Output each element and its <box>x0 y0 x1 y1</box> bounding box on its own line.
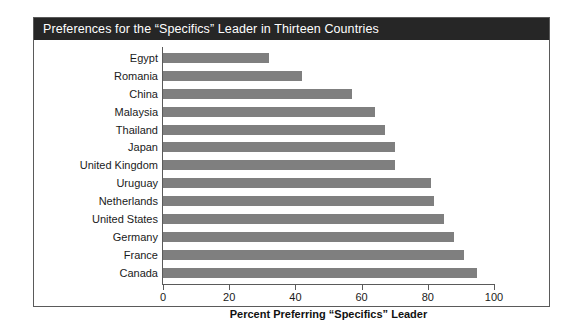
x-axis-tick-label: 40 <box>289 291 301 303</box>
bar-row: Germany <box>163 228 494 246</box>
category-label: Japan <box>128 141 158 153</box>
bar-netherlands <box>163 196 434 206</box>
bar-romania <box>163 71 302 81</box>
plot-area: Egypt Romania China Malaysia Thailand Ja… <box>34 40 549 307</box>
category-label: Egypt <box>130 52 158 64</box>
bar-row: Japan <box>163 139 494 157</box>
bar-row: Canada <box>163 264 494 282</box>
x-axis-tick-label: 20 <box>223 291 235 303</box>
bar-china <box>163 89 352 99</box>
bar-row: Egypt <box>163 49 494 67</box>
x-axis-tick <box>362 285 363 290</box>
bar-row: France <box>163 246 494 264</box>
bar-united-kingdom <box>163 160 395 170</box>
bar-row: Romania <box>163 67 494 85</box>
x-axis-tick-label: 60 <box>355 291 367 303</box>
x-axis-tick-label: 0 <box>160 291 166 303</box>
bar-row: Uruguay <box>163 174 494 192</box>
category-label: United States <box>92 213 158 225</box>
bar-canada <box>163 268 477 278</box>
chart-title-bar: Preferences for the “Specifics” Leader i… <box>34 18 549 40</box>
bar-row: China <box>163 85 494 103</box>
category-label: United Kingdom <box>80 159 158 171</box>
bar-row: Malaysia <box>163 103 494 121</box>
bars-region: Egypt Romania China Malaysia Thailand Ja… <box>163 49 494 282</box>
x-axis-tick-label: 80 <box>422 291 434 303</box>
x-axis-tick <box>428 285 429 290</box>
bar-malaysia <box>163 107 375 117</box>
x-axis-tick <box>229 285 230 290</box>
bar-row: Netherlands <box>163 192 494 210</box>
bar-france <box>163 250 464 260</box>
bar-row: Thailand <box>163 121 494 139</box>
category-label: France <box>124 249 158 261</box>
bar-egypt <box>163 53 269 63</box>
category-label: Netherlands <box>99 195 158 207</box>
bar-united-states <box>163 214 444 224</box>
chart-title: Preferences for the “Specifics” Leader i… <box>43 22 379 36</box>
category-label: Thailand <box>116 124 158 136</box>
bar-row: United Kingdom <box>163 156 494 174</box>
x-axis-tick-label: 100 <box>485 291 503 303</box>
category-label: Canada <box>119 267 158 279</box>
category-label: Germany <box>113 231 158 243</box>
bar-thailand <box>163 125 385 135</box>
x-axis-line <box>162 284 495 285</box>
bar-japan <box>163 142 395 152</box>
chart-figure: Preferences for the “Specifics” Leader i… <box>33 17 550 307</box>
bar-germany <box>163 232 454 242</box>
category-label: China <box>129 88 158 100</box>
category-label: Uruguay <box>116 177 158 189</box>
bar-row: United States <box>163 210 494 228</box>
bar-uruguay <box>163 178 431 188</box>
x-axis-tick <box>163 285 164 290</box>
x-axis-tick <box>295 285 296 290</box>
category-label: Romania <box>114 70 158 82</box>
x-axis-tick <box>494 285 495 290</box>
category-label: Malaysia <box>115 106 158 118</box>
x-axis-title: Percent Preferring “Specifics” Leader <box>163 308 494 320</box>
